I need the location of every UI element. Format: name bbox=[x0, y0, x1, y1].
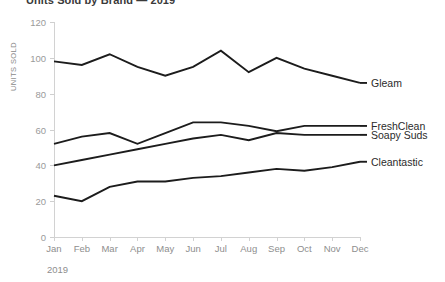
series-line bbox=[54, 162, 360, 201]
series-label-soapy-suds: Soapy Suds bbox=[371, 129, 428, 141]
line-chart: Units Sold by Brand — 2019 UNITS SOLD 02… bbox=[0, 0, 445, 282]
plot-area bbox=[0, 0, 445, 282]
series-label-cleantastic: Cleantastic bbox=[371, 156, 423, 168]
series-label-gleam: Gleam bbox=[371, 77, 402, 89]
series-line bbox=[54, 122, 360, 144]
series-line bbox=[54, 51, 360, 83]
x-axis-group-label: 2019 bbox=[47, 264, 68, 275]
series-line bbox=[54, 133, 360, 165]
